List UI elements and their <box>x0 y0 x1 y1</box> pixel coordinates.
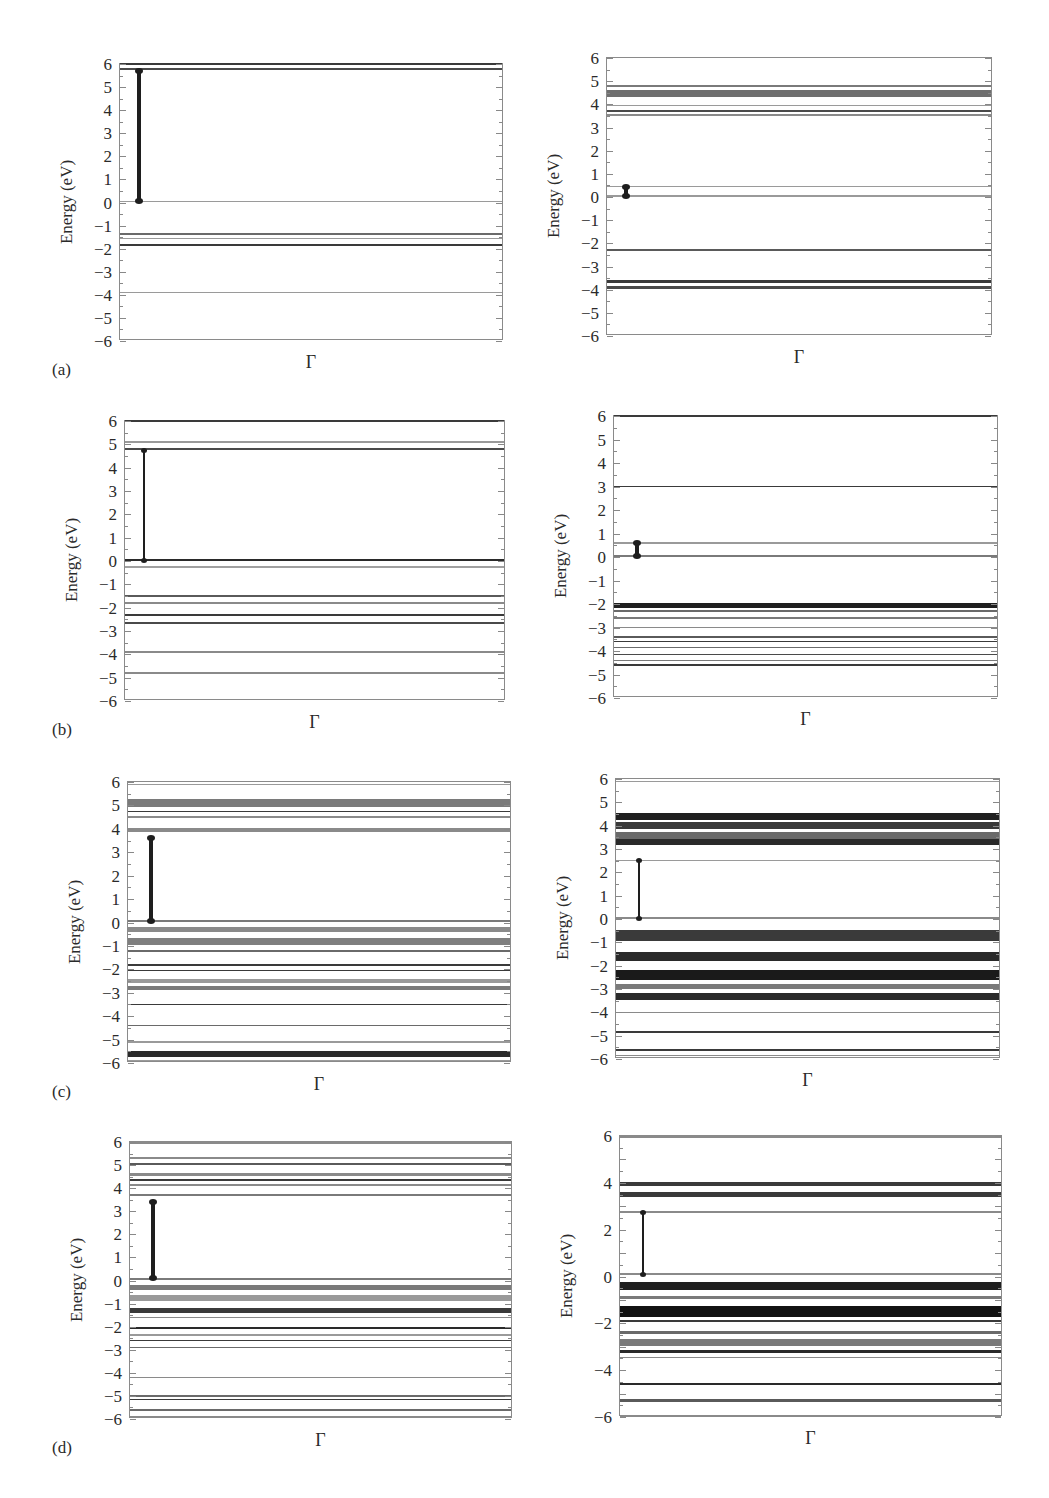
y-tick-label: −1 <box>104 1295 122 1312</box>
y-tick-mark <box>998 1405 1001 1406</box>
y-tick-mark <box>128 1004 131 1005</box>
panel-label: (c) <box>52 1082 71 1102</box>
y-tick-label: −3 <box>94 263 112 280</box>
y-tick-mark <box>620 1405 623 1406</box>
y-tick-mark <box>620 1323 626 1324</box>
y-tick-mark <box>991 416 997 417</box>
y-tick-mark <box>496 156 502 157</box>
x-axis-label: Γ <box>306 352 316 373</box>
energy-level <box>620 1415 1001 1417</box>
y-tick-mark <box>504 969 510 970</box>
energy-level <box>620 1136 1001 1138</box>
y-tick-mark <box>128 946 134 947</box>
energy-level <box>614 617 997 619</box>
y-tick-mark <box>504 923 510 924</box>
y-tick-mark <box>498 654 504 655</box>
plot-frame-d-right: 6420−2−4−6 <box>619 1135 1002 1416</box>
energy-level <box>130 1308 511 1313</box>
y-tick-mark <box>130 1396 136 1397</box>
y-tick-label: 0 <box>604 1268 613 1285</box>
y-tick-mark <box>120 295 126 296</box>
energy-level <box>607 85 991 87</box>
y-tick-mark <box>120 156 126 157</box>
y-tick-label: 3 <box>600 841 609 858</box>
y-tick-mark <box>991 698 997 699</box>
y-tick-mark <box>498 421 504 422</box>
y-tick-label: −5 <box>588 666 606 683</box>
plot-frame-d-left: 6543210−1−2−3−4−5−6 <box>129 1141 512 1418</box>
y-tick-mark <box>614 628 620 629</box>
y-tick-mark <box>993 919 999 920</box>
y-tick-mark <box>620 1394 626 1395</box>
y-tick-mark <box>998 1241 1001 1242</box>
y-tick-mark <box>985 336 991 337</box>
y-tick-mark <box>616 826 622 827</box>
y-tick-mark <box>995 1159 1001 1160</box>
y-tick-mark <box>507 1004 510 1005</box>
band-gap-arrow <box>143 451 145 560</box>
band-gap-arrow <box>638 861 640 918</box>
y-tick-mark <box>499 283 502 284</box>
y-tick-mark <box>607 174 613 175</box>
y-tick-label: −4 <box>590 1004 608 1021</box>
energy-level <box>616 1031 999 1033</box>
y-tick-mark <box>120 237 123 238</box>
y-tick-mark <box>125 479 128 480</box>
y-tick-mark <box>505 1350 511 1351</box>
energy-level <box>620 1306 1001 1318</box>
energy-level <box>614 647 997 649</box>
y-tick-mark <box>120 226 126 227</box>
y-tick-mark <box>508 1269 511 1270</box>
energy-level <box>120 63 502 66</box>
y-tick-label: −1 <box>102 937 120 954</box>
y-tick-mark <box>988 185 991 186</box>
y-tick-mark <box>501 433 504 434</box>
panel-label: (b) <box>52 720 72 740</box>
y-axis-label: Energy (eV) <box>62 518 82 602</box>
y-tick-mark <box>128 934 131 935</box>
y-tick-mark <box>614 498 617 499</box>
y-tick-mark <box>985 128 991 129</box>
y-tick-mark <box>616 1036 622 1037</box>
y-tick-mark <box>120 179 126 180</box>
y-tick-mark <box>498 491 504 492</box>
y-tick-mark <box>507 817 510 818</box>
y-tick-label: 6 <box>109 413 118 430</box>
y-tick-mark <box>620 1241 623 1242</box>
y-tick-mark <box>614 616 617 617</box>
energy-level <box>616 984 999 989</box>
y-tick-label: 0 <box>109 553 118 570</box>
y-tick-mark <box>496 133 502 134</box>
y-tick-mark <box>130 1165 136 1166</box>
y-tick-mark <box>993 1036 999 1037</box>
y-tick-mark <box>616 1059 622 1060</box>
y-tick-label: −4 <box>588 643 606 660</box>
y-tick-mark <box>616 1012 622 1013</box>
y-tick-mark <box>991 534 997 535</box>
y-tick-mark <box>130 1327 136 1328</box>
y-tick-mark <box>496 341 502 342</box>
y-tick-mark <box>996 931 999 932</box>
y-tick-mark <box>614 686 617 687</box>
y-tick-mark <box>499 260 502 261</box>
energy-level <box>616 813 999 820</box>
energy-level <box>620 1320 1001 1322</box>
y-tick-mark <box>130 1154 133 1155</box>
y-tick-mark <box>988 278 991 279</box>
y-tick-mark <box>507 864 510 865</box>
y-tick-label: −2 <box>102 961 120 978</box>
y-tick-mark <box>998 1382 1001 1383</box>
y-tick-label: −3 <box>104 1341 122 1358</box>
y-tick-mark <box>994 475 997 476</box>
energy-level <box>607 186 991 188</box>
y-tick-mark <box>607 81 613 82</box>
y-tick-mark <box>994 428 997 429</box>
y-tick-mark <box>128 887 131 888</box>
y-tick-mark <box>995 1253 1001 1254</box>
y-tick-mark <box>994 592 997 593</box>
y-tick-mark <box>125 573 128 574</box>
y-tick-label: 0 <box>104 194 113 211</box>
y-tick-mark <box>501 619 504 620</box>
energy-level <box>616 781 999 783</box>
y-tick-mark <box>125 643 128 644</box>
